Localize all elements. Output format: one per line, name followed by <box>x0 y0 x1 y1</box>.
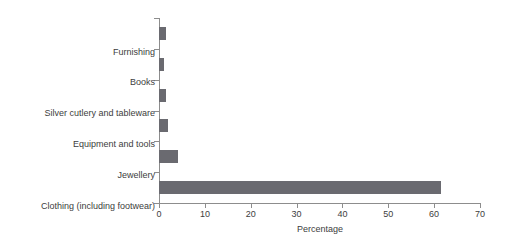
x-axis-tick-label: 30 <box>277 209 317 220</box>
bar-furnishing <box>159 27 166 40</box>
category-label: Silver cutlery and tableware <box>5 108 159 118</box>
x-axis-tick <box>434 203 435 208</box>
x-axis-tick-label: 50 <box>368 209 408 220</box>
bar-equipment-and-tools <box>159 119 168 132</box>
x-axis-tick-label: 70 <box>460 209 500 220</box>
x-axis-tick <box>388 203 389 208</box>
x-axis-tick <box>251 203 252 208</box>
x-axis-line <box>159 203 481 204</box>
x-axis-tick <box>205 203 206 208</box>
bar-row <box>159 18 480 49</box>
x-axis-tick-label: 20 <box>231 209 271 220</box>
bar-silver-cutlery-and-tableware <box>159 89 166 102</box>
bar-clothing-including-footwear <box>159 181 441 194</box>
x-axis-tick <box>480 203 481 208</box>
bar-row <box>159 80 480 111</box>
x-axis-tick-label: 60 <box>414 209 454 220</box>
x-axis-tick <box>159 203 160 208</box>
category-label: Jewellery <box>5 170 159 180</box>
bar-row <box>159 111 480 142</box>
x-axis-tick-label: 10 <box>185 209 225 220</box>
bar-books <box>159 58 164 71</box>
x-axis-tick-label: 40 <box>322 209 362 220</box>
x-axis-tick <box>297 203 298 208</box>
bar-jewellery <box>159 150 178 163</box>
bar-chart: Furnishing Books Silver cutlery and tabl… <box>0 0 506 244</box>
x-axis-title: Percentage <box>159 224 481 235</box>
bar-row <box>159 141 480 172</box>
category-label: Clothing (including footwear) <box>5 201 159 211</box>
category-label: Furnishing <box>5 47 159 57</box>
x-axis-tick <box>342 203 343 208</box>
plot-area <box>159 18 480 203</box>
bar-row <box>159 49 480 80</box>
category-label: Books <box>5 77 159 87</box>
bar-row <box>159 172 480 203</box>
x-axis-tick-label: 0 <box>139 209 179 220</box>
category-label-group: Furnishing Books Silver cutlery and tabl… <box>0 18 159 203</box>
category-label: Equipment and tools <box>5 139 159 149</box>
